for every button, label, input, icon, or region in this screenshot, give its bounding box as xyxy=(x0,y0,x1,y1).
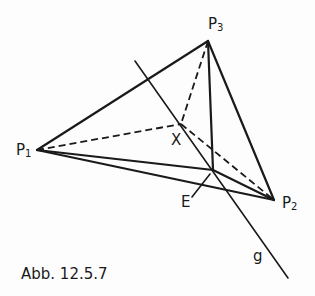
label-p1: P1 xyxy=(16,143,31,158)
label-x: X xyxy=(171,133,181,148)
edge-p1-p3 xyxy=(37,41,208,150)
figure-canvas: P1 P2 P3 X E g Abb. 12.5.7 xyxy=(0,0,315,296)
label-g: g xyxy=(253,249,263,264)
segment-p3-e xyxy=(208,41,213,170)
edge-p3-p2 xyxy=(208,41,274,200)
dashed-p3-x xyxy=(181,41,208,124)
dashed-x-p2 xyxy=(181,124,274,200)
figure-caption: Abb. 12.5.7 xyxy=(21,265,108,283)
label-p2: P2 xyxy=(282,196,297,211)
edge-p1-p2 xyxy=(37,150,274,200)
tetrahedron-diagram xyxy=(0,0,315,296)
segment-p1-e xyxy=(37,150,213,170)
label-e: E xyxy=(181,195,190,210)
label-p3: P3 xyxy=(208,17,223,32)
